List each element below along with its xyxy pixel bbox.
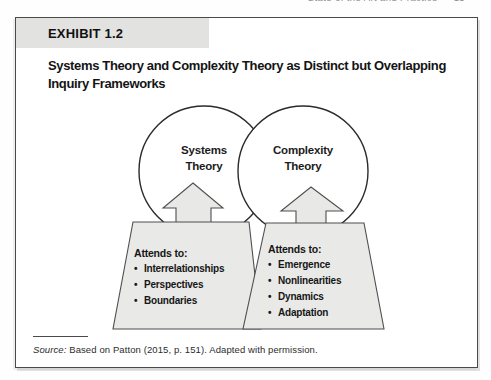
list-item: • Nonlinearities bbox=[268, 273, 341, 289]
list-item-label: Interrelationships bbox=[144, 261, 224, 277]
exhibit-box: EXHIBIT 1.2 Systems Theory and Complexit… bbox=[15, 17, 478, 368]
bullet-icon: • bbox=[268, 273, 278, 289]
source-text: Source: Based on Patton (2015, p. 151). … bbox=[33, 344, 318, 355]
circle-label-systems-theory: Systems Theory bbox=[181, 142, 227, 174]
chapter-title: State of the Art and Practice bbox=[308, 0, 438, 4]
bullet-icon: • bbox=[268, 289, 278, 305]
book-page: State of the Art and Practice 15 EXHIBIT… bbox=[0, 0, 491, 380]
bullet-icon: • bbox=[268, 305, 278, 321]
footnote-rule bbox=[33, 336, 88, 337]
bullet-icon: • bbox=[134, 277, 144, 293]
list-item: • Boundaries bbox=[134, 293, 224, 309]
attends-panel-right: Attends to: • Emergence • Nonlinearities… bbox=[268, 241, 341, 321]
bullet-icon: • bbox=[134, 293, 144, 309]
list-item: • Perspectives bbox=[134, 277, 224, 293]
list-item-label: Boundaries bbox=[144, 293, 197, 309]
page-number: 15 bbox=[454, 0, 465, 4]
panel-heading: Attends to: bbox=[134, 245, 224, 261]
bullet-icon: • bbox=[268, 257, 278, 273]
panel-heading: Attends to: bbox=[268, 241, 341, 257]
bullet-icon: • bbox=[134, 261, 144, 277]
list-item-label: Adaptation bbox=[278, 305, 328, 321]
list-item-label: Perspectives bbox=[144, 277, 203, 293]
exhibit-title: Systems Theory and Complexity Theory as … bbox=[48, 57, 472, 92]
exhibit-label-bar: EXHIBIT 1.2 bbox=[16, 18, 209, 48]
exhibit-label: EXHIBIT 1.2 bbox=[16, 18, 209, 41]
list-item: • Emergence bbox=[268, 257, 341, 273]
list-item-label: Emergence bbox=[278, 257, 330, 273]
source-citation: Based on Patton (2015, p. 151). Adapted … bbox=[69, 344, 318, 355]
running-header: State of the Art and Practice 15 bbox=[308, 0, 465, 4]
source-note: Source: Based on Patton (2015, p. 151). … bbox=[33, 336, 318, 355]
attends-panel-left: Attends to: • Interrelationships • Persp… bbox=[134, 245, 224, 309]
venn-diagram bbox=[16, 96, 478, 336]
source-label: Source: bbox=[33, 344, 66, 355]
list-item-label: Dynamics bbox=[278, 289, 324, 305]
list-item: • Dynamics bbox=[268, 289, 341, 305]
list-item-label: Nonlinearities bbox=[278, 273, 341, 289]
list-item: • Adaptation bbox=[268, 305, 341, 321]
list-item: • Interrelationships bbox=[134, 261, 224, 277]
circle-label-complexity-theory: Complexity Theory bbox=[273, 142, 333, 174]
